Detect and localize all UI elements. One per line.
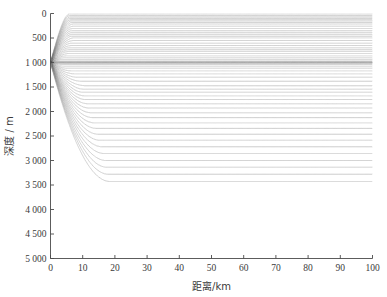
x-tick-label: 80 (303, 263, 313, 273)
y-tick-label: 3 500 (25, 180, 47, 190)
x-tick-label: 100 (365, 263, 380, 273)
plot-canvas: 010203040506070809010005001 0001 5002 00… (0, 0, 387, 297)
x-tick-label: 30 (142, 263, 152, 273)
x-tick-label: 70 (271, 263, 281, 273)
x-tick-label: 90 (336, 263, 346, 273)
x-tick-label: 20 (110, 263, 120, 273)
y-tick-label: 2 000 (25, 107, 47, 117)
ray-trace-figure: 010203040506070809010005001 0001 5002 00… (0, 0, 387, 297)
y-tick-label: 4 500 (25, 229, 47, 239)
x-axis-label: 距离/km (192, 280, 231, 292)
y-tick-label: 0 (42, 9, 47, 19)
x-tick-label: 0 (48, 263, 53, 273)
y-tick-label: 2 500 (25, 131, 47, 141)
x-tick-label: 50 (207, 263, 217, 273)
ray-trace-svg: 010203040506070809010005001 0001 5002 00… (0, 0, 387, 297)
y-tick-label: 4 000 (25, 205, 47, 215)
y-tick-label: 5 000 (25, 254, 47, 264)
x-tick-label: 10 (78, 263, 88, 273)
x-tick-label: 40 (175, 263, 185, 273)
y-tick-label: 1 500 (25, 82, 47, 92)
x-tick-label: 60 (239, 263, 249, 273)
y-tick-label: 500 (32, 33, 47, 43)
y-axis-label: 深度 / m (3, 116, 15, 155)
y-tick-label: 3 000 (25, 156, 47, 166)
y-tick-label: 1 000 (25, 58, 47, 68)
